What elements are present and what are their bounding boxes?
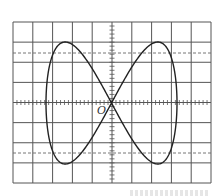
caption-faint xyxy=(130,190,210,196)
origin-label: O xyxy=(97,104,106,117)
oscilloscope-graticule xyxy=(0,0,219,196)
